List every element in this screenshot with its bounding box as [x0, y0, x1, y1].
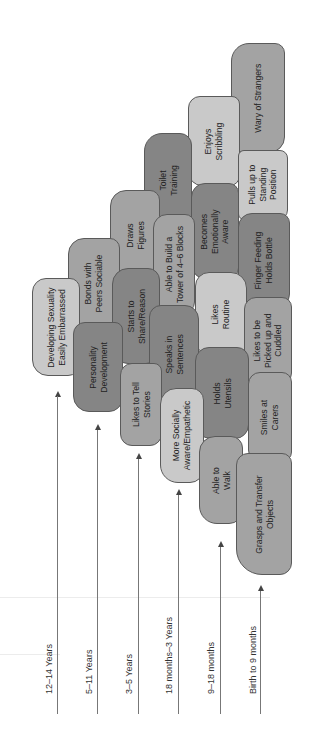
axis-line-5-11	[97, 430, 98, 714]
stone-label: Toilet Training	[157, 165, 178, 196]
stone-likes-routine: Likes Routine	[195, 272, 247, 357]
stone-label: Able to Walk	[210, 467, 231, 494]
stone-personality-development: Personality Development	[73, 322, 123, 412]
stone-label: Bonds with Peers Sociable	[84, 254, 105, 312]
stone-smiles-at-carers: Smiles at Carers	[248, 372, 292, 462]
stone-becomes-emotionally-aware: Becomes Emotionally Aware	[191, 183, 239, 280]
axis-line-12-14	[57, 396, 58, 714]
arrow-up-icon	[218, 541, 224, 547]
stone-label: Likes to be Picked up and Cuddled	[252, 314, 284, 368]
stone-label: Becomes Emotionally Aware	[199, 209, 231, 253]
stone-likes-to-tell-stories: Likes to Tell Stories	[120, 363, 162, 446]
arrow-up-icon	[176, 489, 182, 495]
stone-label: Draws Figures	[125, 221, 146, 250]
stone-label: Able to Build a Tower of 4–6 Blocks	[164, 226, 185, 303]
stone-label: Likes to Tell Stories	[131, 382, 152, 427]
arrow-up-icon	[136, 453, 142, 459]
stone-label: More Socially Aware/Empathetic	[172, 401, 193, 471]
stone-pulls-up-to-standing: Pulls up to Standing Position	[238, 150, 288, 220]
age-label-9-18m: 9–18 months	[206, 642, 216, 694]
stone-enjoys-scribbling: Enjoys Scribbling	[188, 96, 240, 186]
axis-line-9-18m	[220, 547, 221, 714]
age-label-birth-9m: Birth to 9 months	[248, 626, 258, 694]
stone-label: Grasps and Transfer Objects	[254, 475, 275, 553]
stone-label: Wary of Strangers	[253, 64, 264, 133]
stone-label: Holds Utensils	[211, 378, 232, 409]
arrow-up-icon	[95, 424, 101, 430]
age-label-18m-3: 18 months–3 Years	[164, 617, 174, 694]
stone-grasps-and-transfer: Grasps and Transfer Objects	[236, 453, 292, 575]
axis-line-18m-3	[178, 495, 179, 714]
stone-label: Finger Feeding Holds Bottle	[254, 232, 275, 290]
faint-line	[0, 597, 270, 598]
age-label-12-14: 12–14 Years	[44, 644, 54, 694]
stone-label: Starts to Share/Reason	[126, 289, 147, 344]
axis-line-birth-9m	[260, 591, 261, 714]
arrow-up-icon	[258, 585, 264, 591]
stone-more-socially-aware: More Socially Aware/Empathetic	[160, 388, 204, 483]
stone-label: Enjoys Scribbling	[204, 122, 225, 160]
development-diagram: Wary of Strangers Enjoys Scribbling Pull…	[0, 0, 310, 734]
stone-label: Developing Sexuality Easily Embarrassed	[46, 287, 67, 367]
age-label-3-5: 3–5 Years	[124, 654, 134, 694]
stone-label: Speaks in Sentences	[164, 334, 185, 375]
age-label-5-11: 5–11 Years	[84, 650, 94, 694]
stone-label: Personality Development	[88, 342, 109, 393]
arrow-up-icon	[55, 391, 61, 397]
stone-label: Likes Routine	[211, 300, 232, 330]
axis-line-3-5	[138, 459, 139, 714]
stone-label: Pulls up to Standing Position	[247, 165, 279, 205]
stone-label: Smiles at Carers	[260, 399, 281, 434]
